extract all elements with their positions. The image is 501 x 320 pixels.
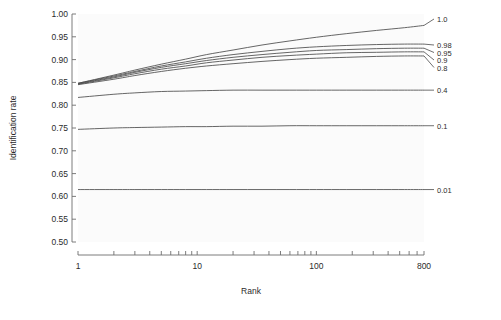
series-label-0_01: 0.01 [437, 186, 452, 195]
series-leader-line-0_98 [424, 44, 434, 45]
series-leader-line-0_9 [424, 52, 434, 60]
identification-rate-chart: 0.500.550.600.650.700.750.800.850.900.95… [0, 0, 501, 320]
series-label-0_1: 0.1 [437, 122, 447, 131]
series-leader-line-0_8 [424, 56, 434, 68]
y-tick-label: 0.65 [51, 169, 68, 179]
y-tick-label: 0.85 [51, 77, 68, 87]
x-tick-label: 100 [309, 261, 323, 271]
series-leader-line-1_0 [424, 19, 434, 25]
x-tick-label: 800 [417, 261, 431, 271]
y-tick-label: 0.70 [51, 146, 68, 156]
y-axis-title: Identification rate [8, 95, 18, 160]
y-tick-label: 1.00 [51, 9, 68, 19]
y-tick-label: 0.50 [51, 237, 68, 247]
x-axis-title: Rank [241, 286, 262, 296]
y-tick-label: 0.90 [51, 55, 68, 65]
series-label-1_0: 1.0 [437, 15, 447, 24]
series-label-0_4: 0.4 [437, 86, 447, 95]
x-tick-label: 10 [192, 261, 202, 271]
series-label-0_8: 0.8 [437, 64, 447, 73]
y-tick-label: 0.95 [51, 32, 68, 42]
x-tick-label: 1 [76, 261, 81, 271]
series-leader-line-0_95 [424, 48, 434, 52]
y-tick-label: 0.60 [51, 191, 68, 201]
y-tick-label: 0.75 [51, 123, 68, 133]
y-tick-label: 0.55 [51, 214, 68, 224]
chart-container: 0.500.550.600.650.700.750.800.850.900.95… [0, 0, 501, 320]
y-tick-label: 0.80 [51, 100, 68, 110]
